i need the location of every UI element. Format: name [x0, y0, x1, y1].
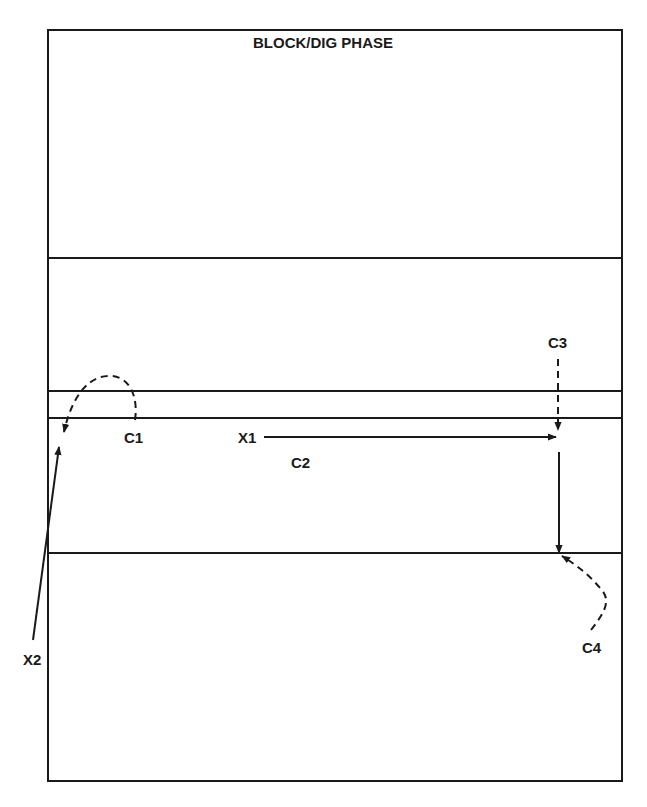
label-x1: X1 [238, 429, 256, 446]
court-border [48, 30, 622, 781]
c1-dashed-arc [64, 376, 136, 432]
label-c2: C2 [291, 454, 310, 471]
label-x2: X2 [23, 651, 41, 668]
x2-arrow [33, 447, 59, 640]
diagram-title: BLOCK/DIG PHASE [253, 34, 393, 51]
label-c1: C1 [124, 429, 143, 446]
label-c4: C4 [582, 639, 602, 656]
block-dig-phase-diagram: BLOCK/DIG PHASE C1 X2 X1 C2 C3 C4 [0, 0, 647, 807]
c4-dashed-curve [562, 556, 606, 630]
label-c3: C3 [548, 334, 567, 351]
